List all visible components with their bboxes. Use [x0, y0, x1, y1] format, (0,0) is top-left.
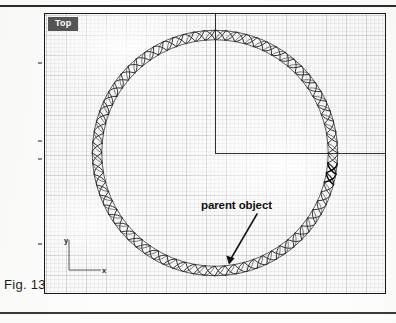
axis-gizmo-y-label: y: [64, 236, 68, 245]
axis-gizmo: y x: [63, 236, 111, 282]
figure-caption: Fig. 13: [4, 277, 46, 292]
annotation-label-parent-object: parent object: [201, 199, 272, 211]
axis-gizmo-x-label: x: [102, 266, 106, 275]
ruler-tick: [38, 140, 42, 142]
ruler-tick: [38, 158, 42, 160]
page-rule-bottom: [0, 312, 396, 314]
viewport-label-top[interactable]: Top: [48, 17, 78, 31]
page-rule-top: [0, 5, 396, 7]
ruler-tick: [38, 243, 42, 245]
axis-gizmo-lines-icon: [63, 236, 111, 282]
figure-page: Fig. 13 Top parent object y x: [0, 0, 396, 323]
top-viewport[interactable]: Top parent object y x: [44, 13, 386, 294]
ruler-tick: [38, 62, 42, 64]
